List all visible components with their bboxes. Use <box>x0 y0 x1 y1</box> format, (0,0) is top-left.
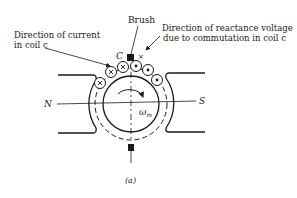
bottom-brush <box>128 144 134 151</box>
conductor-dot-3 <box>152 75 163 86</box>
commutation-cross-mark: × <box>138 53 144 61</box>
angular-speed-label: ωm <box>139 107 152 118</box>
north-pole-label: N <box>43 99 53 109</box>
coil-c-label: C <box>116 51 123 61</box>
current-leader-arrow <box>45 48 110 66</box>
rotation-arrow-icon <box>118 90 143 97</box>
figure-caption: (a) <box>125 176 136 185</box>
brush-leader-line <box>131 26 138 54</box>
conductor-cross-2 <box>106 67 117 78</box>
conductor-cross-1 <box>95 78 106 89</box>
south-pole-label: S <box>199 96 205 106</box>
conductor-dot-1 <box>131 61 142 72</box>
dc-machine-commutation-diagram: Brush Direction of current in coil c Dir… <box>0 0 297 198</box>
conductor-dot-2 <box>143 65 154 76</box>
neutral-axis-line <box>57 101 196 104</box>
conductor-cross-3 <box>118 62 129 73</box>
current-direction-label-line2: in coil c <box>14 40 48 50</box>
reactance-label-line1: Direction of reactance voltage <box>162 23 293 33</box>
current-direction-label-line1: Direction of current <box>14 30 101 40</box>
brush-label: Brush <box>128 15 155 25</box>
reactance-label-line2: due to commutation in coil c <box>163 33 286 43</box>
reactance-leader-arrow <box>146 36 160 50</box>
top-brush <box>127 54 134 61</box>
